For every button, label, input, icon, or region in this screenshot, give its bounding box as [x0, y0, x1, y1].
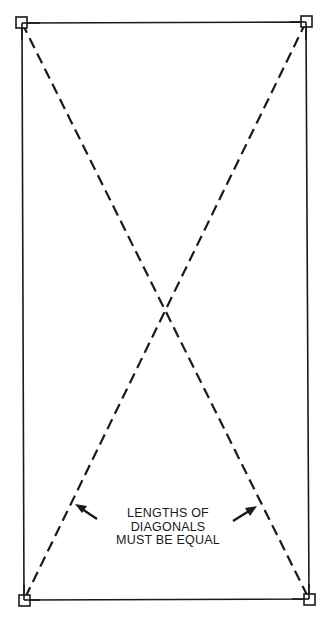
diagonals-annotation: LENGTHS OF DIAGONALS MUST BE EQUAL [108, 507, 228, 548]
annotation-line-1: LENGTHS OF [108, 507, 228, 521]
annotation-line-2: DIAGONALS [108, 521, 228, 535]
annotation-line-3: MUST BE EQUAL [108, 534, 228, 548]
arrow-left-icon [75, 504, 97, 519]
arrow-right-icon [233, 506, 257, 521]
